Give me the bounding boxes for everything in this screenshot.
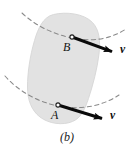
point-marker-A bbox=[56, 103, 60, 107]
figure-container: B A v v (b) bbox=[0, 0, 134, 153]
point-label-B: B bbox=[63, 41, 70, 53]
point-marker-B bbox=[70, 35, 74, 39]
figure-caption: (b) bbox=[0, 131, 134, 143]
velocity-label-B: v bbox=[120, 44, 125, 56]
point-label-A: A bbox=[51, 109, 58, 121]
velocity-label-A: v bbox=[110, 110, 115, 122]
